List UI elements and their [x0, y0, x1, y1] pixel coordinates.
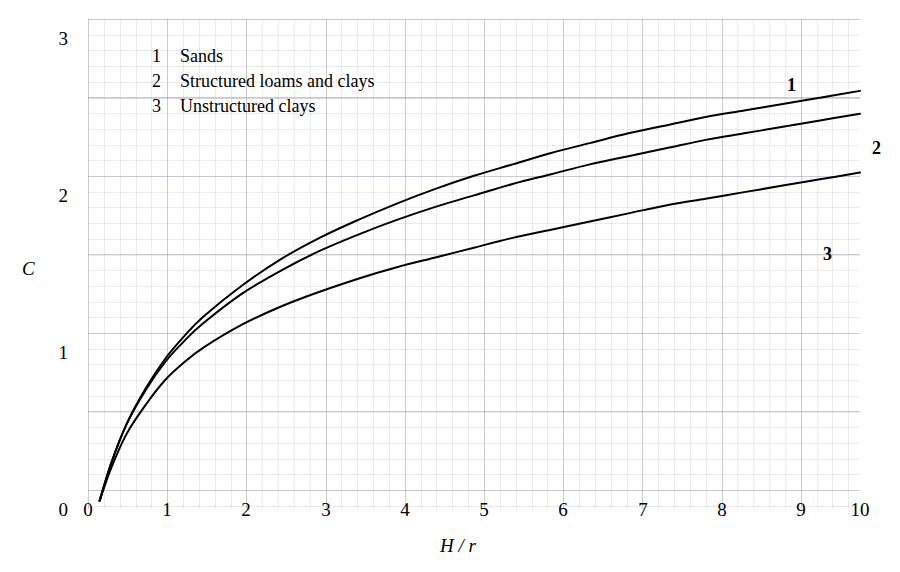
x-tick-label-9: 9	[781, 500, 821, 519]
y-tick-label-2: 2	[28, 186, 68, 205]
y-tick-label-3: 3	[28, 29, 68, 48]
legend-key-2: 2	[152, 69, 180, 94]
legend-key-3: 3	[152, 94, 180, 119]
chart-figure: 3 2 1 0 C 0 1 2 3 4 5 6 7 8 9 10 H / r 1…	[0, 0, 900, 572]
curve-label-3: 3	[823, 244, 832, 265]
legend-label-1: Sands	[180, 44, 223, 69]
x-tick-label-2: 2	[226, 500, 266, 519]
x-tick-label-4: 4	[385, 500, 425, 519]
y-tick-label-1: 1	[28, 343, 68, 362]
legend-label-3: Unstructured clays	[180, 94, 315, 119]
legend-row-3: 3Unstructured clays	[152, 94, 374, 119]
x-tick-label-0: 0	[68, 500, 108, 519]
y-tick-label-0: 0	[28, 500, 68, 519]
x-tick-label-3: 3	[306, 500, 346, 519]
y-axis-title: C	[22, 258, 35, 280]
legend-label-2: Structured loams and clays	[180, 69, 374, 94]
x-tick-label-5: 5	[464, 500, 504, 519]
legend-key-1: 1	[152, 44, 180, 69]
curve-label-2: 2	[872, 138, 881, 159]
x-tick-label-1: 1	[147, 500, 187, 519]
x-tick-label-10: 10	[840, 500, 880, 519]
x-tick-label-8: 8	[702, 500, 742, 519]
legend-row-2: 2Structured loams and clays	[152, 69, 374, 94]
legend: 1Sands 2Structured loams and clays 3Unst…	[152, 44, 374, 119]
x-tick-label-7: 7	[623, 500, 663, 519]
x-axis-title: H / r	[440, 535, 476, 557]
legend-row-1: 1Sands	[152, 44, 374, 69]
curve-label-1: 1	[787, 75, 796, 96]
x-tick-label-6: 6	[543, 500, 583, 519]
